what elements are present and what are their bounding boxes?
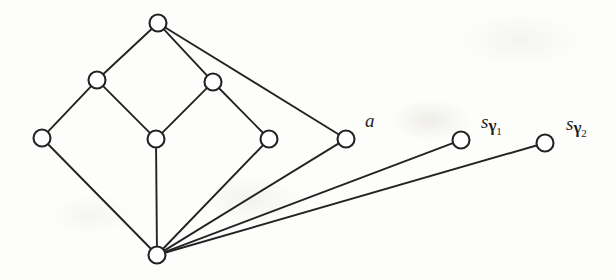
- graph-node-top: [150, 15, 167, 32]
- graph-edge: [48, 144, 152, 250]
- node-label-s-gamma-2: sγ2: [566, 114, 587, 133]
- graph-edge: [103, 28, 152, 74]
- label-a-main: a: [365, 110, 375, 131]
- graph-node-left: [34, 130, 51, 147]
- node-label-a: a: [365, 111, 375, 130]
- graph-edge: [48, 86, 92, 132]
- graph-edge: [163, 29, 207, 76]
- node-label-s-gamma-1: sγ1: [481, 112, 502, 131]
- graph-node-ul: [89, 72, 106, 89]
- graph-edge: [165, 27, 339, 135]
- graph-edge: [219, 88, 264, 134]
- graph-canvas: [0, 0, 616, 279]
- nodes-group: [34, 15, 554, 264]
- graph-node-sg1: [453, 132, 470, 149]
- graph-node-rmid: [261, 131, 278, 148]
- label-sg1-index: 1: [496, 125, 502, 137]
- graph-node-bottom: [149, 247, 166, 264]
- graph-edge: [103, 86, 151, 134]
- graph-node-ur: [205, 74, 222, 91]
- graph-edge: [165, 145, 538, 253]
- label-sg2-index: 2: [581, 127, 587, 139]
- graph-node-center: [148, 131, 165, 148]
- graph-edge: [156, 147, 157, 247]
- diagram-root: a sγ1 sγ2: [0, 0, 616, 279]
- graph-node-sg2: [537, 135, 554, 152]
- graph-edge: [162, 88, 208, 134]
- graph-edge: [164, 143, 453, 252]
- graph-node-a: [338, 131, 355, 148]
